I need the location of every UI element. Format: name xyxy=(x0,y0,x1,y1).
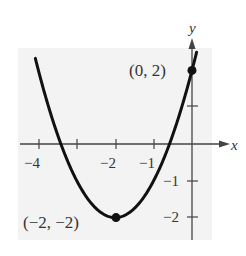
y-intercept-label: (0, 2) xyxy=(129,61,166,80)
x-axis-arrow-icon xyxy=(219,141,230,148)
y-tick-label: −2 xyxy=(163,209,179,225)
x-tick-label: −2 xyxy=(100,155,116,171)
y-tick-label: −1 xyxy=(163,173,179,189)
parabola-graph: y x −4 −2 −1 −1 −2 (0, 2) (−2, −2) xyxy=(0,0,246,256)
x-tick-label: −1 xyxy=(139,155,155,171)
y-axis-label: y xyxy=(187,20,196,36)
x-tick-label: −4 xyxy=(24,155,40,171)
vertex-label: (−2, −2) xyxy=(23,213,79,232)
x-axis-label: x xyxy=(230,137,238,153)
vertex-point xyxy=(112,213,121,222)
y-intercept-point xyxy=(188,66,197,75)
y-axis-arrow-icon xyxy=(189,38,196,49)
